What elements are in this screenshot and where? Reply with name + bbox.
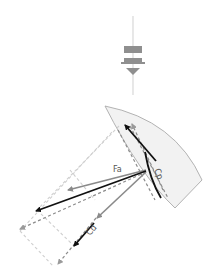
wind-direction-icon [121, 16, 145, 95]
label-fa: Fa [113, 164, 122, 174]
label-cd: Cd [84, 223, 99, 238]
light-dashed-guides [20, 126, 119, 266]
sail-force-diagram: Fa Cp Cd [0, 0, 215, 279]
